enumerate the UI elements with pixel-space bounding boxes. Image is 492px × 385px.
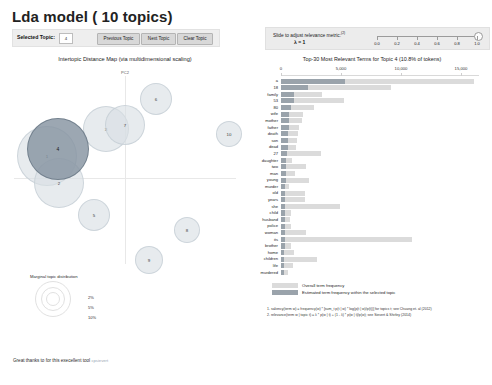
term-label[interactable]: years <box>238 197 278 202</box>
intertopic-map-title: Intertopic Distance Map (via multidimens… <box>0 56 250 62</box>
term-label[interactable]: mother <box>238 118 278 123</box>
term-bar-row[interactable]: life <box>252 263 492 270</box>
x-axis-tick <box>401 73 402 76</box>
clear-topic-button[interactable]: Clear Topic <box>177 33 213 45</box>
next-topic-button[interactable]: Next Topic <box>141 33 176 45</box>
topic-bubble-6[interactable]: 6 <box>140 83 172 115</box>
x-axis-tick <box>461 73 462 76</box>
x-axis-tick-label: 0 <box>280 66 282 71</box>
term-bar-row[interactable]: man <box>252 170 492 177</box>
term-bar-row[interactable]: son <box>252 137 492 144</box>
selected-topic-input[interactable]: 4 <box>59 33 73 44</box>
term-bar-row[interactable]: years <box>252 197 492 204</box>
term-label[interactable]: brother <box>238 243 278 248</box>
term-label[interactable]: 53 <box>238 98 278 103</box>
term-bar-row[interactable]: 80 <box>252 104 492 111</box>
term-chart-x-axis <box>281 75 479 76</box>
term-bar-row[interactable]: child <box>252 210 492 217</box>
term-label[interactable]: young <box>238 177 278 182</box>
term-bar-row[interactable]: husband <box>252 216 492 223</box>
term-bar-row[interactable]: murder <box>252 184 492 191</box>
bar-topic-frequency <box>281 79 345 84</box>
term-bar-row[interactable]: old <box>252 190 492 197</box>
term-label[interactable]: death <box>238 131 278 136</box>
term-bar-row[interactable]: brother <box>252 243 492 250</box>
term-bar-row[interactable]: family <box>252 91 492 98</box>
term-bar-list: a18family5380wifemotherfatherdeathsondea… <box>252 78 492 276</box>
previous-topic-button[interactable]: Previous Topic <box>97 33 140 45</box>
topic-bubble-9[interactable]: 9 <box>135 246 163 274</box>
term-label[interactable]: dead <box>238 144 278 149</box>
term-bar-row[interactable]: home <box>252 249 492 256</box>
bar-overall-frequency <box>281 230 306 235</box>
term-label[interactable]: murdered <box>238 270 278 275</box>
term-bar-wrapper <box>281 105 481 110</box>
term-label[interactable]: husband <box>238 217 278 222</box>
term-label[interactable]: 27 <box>238 151 278 156</box>
bar-topic-frequency <box>281 263 284 268</box>
term-bar-row[interactable]: murdered <box>252 269 492 276</box>
term-bar-wrapper <box>281 138 481 143</box>
bar-topic-frequency <box>281 210 285 215</box>
term-bar-row[interactable]: wife <box>252 111 492 118</box>
term-label[interactable]: its <box>238 237 278 242</box>
term-bar-row[interactable]: a <box>252 78 492 85</box>
term-bar-row[interactable]: woman <box>252 230 492 237</box>
term-label[interactable]: a <box>238 78 278 83</box>
term-label[interactable]: life <box>238 263 278 268</box>
topic-bubble-4[interactable]: 4 <box>27 118 89 180</box>
term-bar-row[interactable]: police <box>252 223 492 230</box>
term-label[interactable]: home <box>238 250 278 255</box>
term-label[interactable]: wife <box>238 111 278 116</box>
term-bar-row[interactable]: young <box>252 177 492 184</box>
term-bar-row[interactable]: 53 <box>252 98 492 105</box>
term-label[interactable]: two <box>238 164 278 169</box>
term-bar-row[interactable]: its <box>252 236 492 243</box>
term-label[interactable]: child <box>238 210 278 215</box>
legend-swatch-overall <box>272 283 298 288</box>
topic-bubble-5[interactable]: 5 <box>78 199 110 231</box>
bar-topic-frequency <box>281 257 284 262</box>
slider-tick-label: 0.4 <box>414 41 420 46</box>
term-label[interactable]: man <box>238 171 278 176</box>
term-bar-row[interactable]: 18 <box>252 85 492 92</box>
term-label[interactable]: old <box>238 190 278 195</box>
topic-bubble-7[interactable]: 7 <box>105 105 145 145</box>
term-label[interactable]: she <box>238 204 278 209</box>
term-label[interactable]: family <box>238 92 278 97</box>
term-bar-wrapper <box>281 270 481 275</box>
term-bar-row[interactable]: dead <box>252 144 492 151</box>
slider-tick <box>417 36 418 40</box>
term-bar-row[interactable]: she <box>252 203 492 210</box>
bar-overall-frequency <box>281 237 412 242</box>
term-label[interactable]: father <box>238 125 278 130</box>
slider-tick-label: 0.8 <box>454 41 460 46</box>
term-bar-row[interactable]: 27 <box>252 151 492 158</box>
slider-track[interactable] <box>377 36 477 37</box>
bar-topic-frequency <box>281 243 285 248</box>
term-label[interactable]: woman <box>238 230 278 235</box>
term-bar-wrapper <box>281 79 481 84</box>
term-label[interactable]: son <box>238 138 278 143</box>
topic-bubble-8[interactable]: 8 <box>174 217 200 243</box>
pc2-axis-label: PC2 <box>0 70 250 75</box>
term-label[interactable]: 80 <box>238 105 278 110</box>
bar-topic-frequency <box>281 105 291 110</box>
term-bar-row[interactable]: mother <box>252 118 492 125</box>
term-label[interactable]: police <box>238 223 278 228</box>
bar-topic-frequency <box>281 171 286 176</box>
credit-link[interactable]: cpsievert <box>91 358 108 363</box>
term-bar-row[interactable]: father <box>252 124 492 131</box>
term-label[interactable]: 18 <box>238 85 278 90</box>
term-label[interactable]: children <box>238 256 278 261</box>
slider-handle[interactable] <box>474 32 483 41</box>
term-bar-row[interactable]: children <box>252 256 492 263</box>
term-bar-row[interactable]: death <box>252 131 492 138</box>
topic-bubble-10[interactable]: 10 <box>216 121 242 147</box>
term-bar-row[interactable]: daughter <box>252 157 492 164</box>
term-label[interactable]: daughter <box>238 158 278 163</box>
term-bar-row[interactable]: two <box>252 164 492 171</box>
term-label[interactable]: murder <box>238 184 278 189</box>
slider-tick-label: 0.2 <box>394 41 400 46</box>
term-bar-wrapper <box>281 178 481 183</box>
